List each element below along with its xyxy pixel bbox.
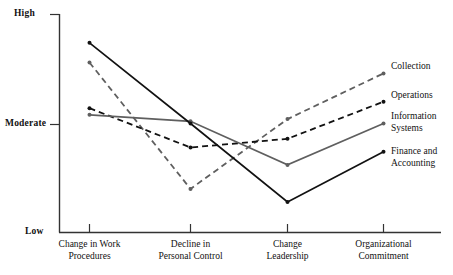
legend-label-operations: Operations	[391, 90, 433, 102]
data-point	[88, 106, 92, 110]
y-axis-label-high: High	[14, 9, 35, 19]
data-point	[286, 117, 290, 121]
data-point	[382, 150, 386, 154]
data-point	[189, 146, 193, 150]
series-line-information-systems	[90, 115, 384, 165]
legend-label-finance-and-accounting: Finance and Accounting	[391, 146, 437, 169]
legend-label-line1: Operations	[391, 90, 433, 102]
legend-label-line2: Systems	[391, 123, 436, 135]
series-line-collection	[90, 63, 384, 189]
legend-label-line2: Accounting	[391, 158, 437, 170]
data-point	[286, 137, 290, 141]
data-point	[286, 163, 290, 167]
legend-label-line1: Finance and	[391, 146, 437, 158]
legend-label-line1: Information	[391, 111, 436, 123]
legend-label-collection: Collection	[391, 61, 431, 73]
y-axis-label-low: Low	[25, 227, 44, 237]
data-point	[88, 41, 92, 45]
legend-label-line1: Collection	[391, 61, 431, 73]
series-line-operations	[90, 102, 384, 148]
series-layer	[88, 41, 386, 204]
legend-label-information-systems: Information Systems	[391, 111, 436, 134]
x-axis-label-line2: Commitment	[323, 251, 444, 263]
data-point	[382, 100, 386, 104]
chart-container: High Moderate Low Change in Work Procedu…	[0, 0, 453, 275]
line-chart-plot	[0, 0, 453, 275]
data-point	[88, 61, 92, 65]
data-point	[382, 122, 386, 126]
x-axis-label-line1: Organizational	[323, 239, 444, 251]
data-point	[189, 122, 193, 126]
series-line-finance-and-accounting	[90, 43, 384, 202]
data-point	[382, 71, 386, 75]
data-point	[286, 200, 290, 204]
x-axis-label-organizational-commitment: Organizational Commitment	[323, 239, 444, 262]
data-point	[88, 113, 92, 117]
data-point	[189, 187, 193, 191]
y-axis-label-moderate: Moderate	[5, 119, 46, 129]
